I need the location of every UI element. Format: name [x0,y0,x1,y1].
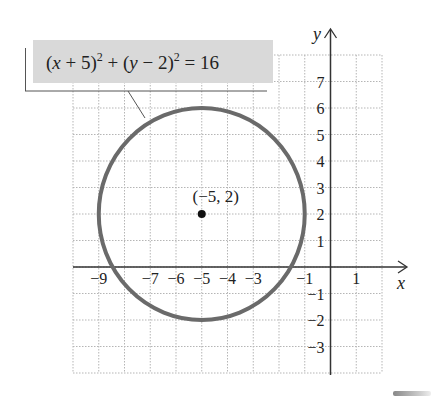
points: (−5, 2) [193,187,239,218]
y-tick-label: 7 [317,74,325,91]
y-tick-label: 5 [317,127,325,144]
y-tick-label: −3 [307,339,324,356]
y-axis-label: y [311,24,321,44]
y-tick-label: 2 [317,206,325,223]
x-tick-label: −4 [219,270,236,287]
x-tick-label: −6 [167,270,184,287]
y-tick-label: 6 [317,100,325,117]
y-tick-label: 3 [317,180,325,197]
x-tick-label: −9 [90,270,107,287]
circle-graph: (x + 5)2 + (y − 2)2 = 16 xy −9−7−6−5−4−3… [0,0,435,396]
center-point-label: (−5, 2) [193,187,239,206]
leader-line [128,91,145,118]
x-tick-label: 1 [352,270,360,287]
equation-text: (x + 5)2 + (y − 2)2 = 16 [46,50,219,74]
x-tick-label: −1 [296,270,313,287]
y-tick-label: −2 [307,312,324,329]
x-tick-label: −3 [245,270,262,287]
equation-callout: (x + 5)2 + (y − 2)2 = 16 [25,40,273,118]
y-tick-label: −1 [307,286,324,303]
scan-smudge [393,391,431,396]
center-point [198,210,206,218]
grid [73,55,382,373]
x-axis-label: x [396,273,405,293]
x-tick-label: −5 [193,270,210,287]
y-tick-label: 4 [317,153,325,170]
y-tick-label: 1 [317,233,325,250]
x-tick-label: −7 [142,270,159,287]
